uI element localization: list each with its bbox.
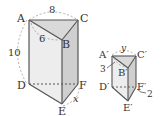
measure-EF-label: x <box>73 93 79 104</box>
measure-AD-label: 10 <box>8 47 21 58</box>
vertex-E-prime-label: E′ <box>123 102 133 113</box>
vertex-A-label: A <box>16 12 26 25</box>
vertex-B-prime-label: B′ <box>118 67 128 78</box>
measure-AC-label: 8 <box>49 4 55 15</box>
measure-E-prime-F-prime-label: 2 <box>147 89 153 99</box>
vertex-B-label: B <box>62 38 70 51</box>
large-prism <box>18 12 80 106</box>
vertex-C-prime-label: C′ <box>137 49 148 60</box>
prism-diagram: A C B D F E 8 6 10 x A′ C′ B <box>0 0 164 116</box>
vertex-A-prime-label: A′ <box>98 49 109 60</box>
vertex-D-label: D <box>17 79 26 92</box>
measure-AB-label: 6 <box>39 33 45 44</box>
vertex-D-prime-label: D′ <box>99 81 110 92</box>
vertex-C-label: C <box>80 12 88 25</box>
vertex-F-label: F <box>79 79 87 92</box>
vertex-F-prime-label: F′ <box>137 81 147 92</box>
vertex-E-label: E <box>58 105 66 116</box>
measure-A-prime-B-prime-label: 3 <box>100 64 106 74</box>
measure-A-prime-C-prime-label: y <box>120 43 127 53</box>
